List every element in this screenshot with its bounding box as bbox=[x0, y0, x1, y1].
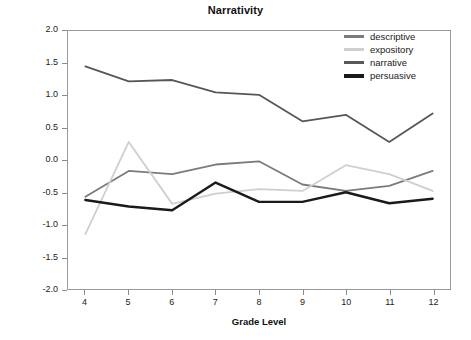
y-tick-label: 0.5 bbox=[28, 123, 58, 132]
x-tick-mark bbox=[259, 290, 260, 295]
legend-item-persuasive[interactable]: persuasive bbox=[344, 69, 416, 82]
legend-item-label: persuasive bbox=[370, 70, 416, 81]
y-tick-label: 2.0 bbox=[28, 25, 58, 34]
legend-item-expository[interactable]: expository bbox=[344, 43, 416, 56]
y-tick-label: -0.5 bbox=[28, 188, 58, 197]
legend-item-descriptive[interactable]: descriptive bbox=[344, 30, 416, 43]
x-tick-label: 11 bbox=[378, 298, 402, 307]
x-tick-mark bbox=[303, 290, 304, 295]
x-tick-mark bbox=[84, 290, 85, 295]
x-tick-mark bbox=[215, 290, 216, 295]
legend-item-narrative[interactable]: narrative bbox=[344, 56, 416, 69]
x-tick-mark bbox=[390, 290, 391, 295]
x-tick-label: 8 bbox=[247, 298, 271, 307]
x-tick-mark bbox=[172, 290, 173, 295]
series-line-expository bbox=[85, 142, 432, 234]
legend-swatch-icon bbox=[344, 35, 364, 38]
x-tick-mark bbox=[434, 290, 435, 295]
narrativity-line-chart: Narrativity Mean Trait Score 2.01.51.00.… bbox=[0, 0, 471, 340]
y-tick-label: 0.0 bbox=[28, 155, 58, 164]
legend-swatch-icon bbox=[344, 48, 364, 51]
chart-title: Narrativity bbox=[0, 4, 471, 16]
legend-swatch-icon bbox=[344, 74, 364, 78]
y-tick-label: 1.5 bbox=[28, 58, 58, 67]
y-tick-mark bbox=[62, 290, 67, 291]
y-axis-title: Mean Trait Score bbox=[0, 0, 1, 118]
x-tick-label: 5 bbox=[116, 298, 140, 307]
x-tick-mark bbox=[128, 290, 129, 295]
x-tick-label: 6 bbox=[160, 298, 184, 307]
y-tick-label: 1.0 bbox=[28, 90, 58, 99]
legend: descriptiveexpositorynarrativepersuasive bbox=[340, 26, 422, 86]
x-tick-label: 10 bbox=[334, 298, 358, 307]
legend-item-label: expository bbox=[370, 44, 413, 55]
legend-swatch-icon bbox=[344, 61, 364, 64]
y-tick-label: -2.0 bbox=[28, 285, 58, 294]
y-tick-label: -1.0 bbox=[28, 220, 58, 229]
legend-item-label: descriptive bbox=[370, 31, 415, 42]
x-axis-title: Grade Level bbox=[67, 316, 451, 327]
legend-item-label: narrative bbox=[370, 57, 407, 68]
x-tick-label: 4 bbox=[72, 298, 96, 307]
x-tick-label: 9 bbox=[291, 298, 315, 307]
x-tick-label: 12 bbox=[422, 298, 446, 307]
x-tick-label: 7 bbox=[203, 298, 227, 307]
series-line-descriptive bbox=[85, 161, 432, 196]
y-tick-label: -1.5 bbox=[28, 253, 58, 262]
x-tick-mark bbox=[346, 290, 347, 295]
